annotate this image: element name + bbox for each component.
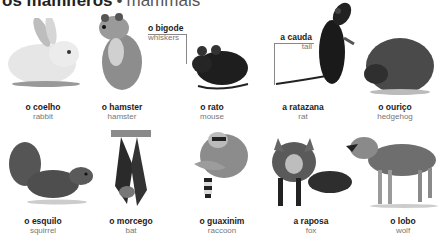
label-pt: o morcego bbox=[88, 216, 174, 226]
label-en: hedgehog bbox=[352, 112, 438, 122]
mouse-image bbox=[188, 40, 250, 92]
label-pt: a ratazana bbox=[260, 102, 346, 112]
whiskers-callout: o bigode whiskers bbox=[148, 23, 183, 43]
label-pt: o esquilo bbox=[0, 216, 86, 226]
label-en: rabbit bbox=[0, 112, 86, 122]
label-pt: o lobo bbox=[360, 216, 440, 226]
label-en: raccoon bbox=[179, 226, 265, 236]
label-pt: o guaxinim bbox=[179, 216, 265, 226]
wolf-image bbox=[340, 126, 440, 210]
animal-label-wolf: o lobo wolf bbox=[360, 216, 440, 236]
rat-image bbox=[274, 0, 356, 92]
raccoon-image bbox=[190, 126, 252, 206]
rabbit-image bbox=[2, 18, 86, 88]
title-separator: • bbox=[117, 0, 123, 10]
animal-label-hedgehog: o ouriço hedgehog bbox=[352, 102, 438, 122]
animal-label-rabbit: o coelho rabbit bbox=[0, 102, 86, 122]
title-english: mammals bbox=[127, 0, 201, 10]
animal-label-mouse: o rato mouse bbox=[169, 102, 255, 122]
label-en: hamster bbox=[79, 112, 165, 122]
label-pt: o coelho bbox=[0, 102, 86, 112]
animal-label-squirrel: o esquilo squirrel bbox=[0, 216, 86, 236]
callout-pt: o bigode bbox=[148, 23, 183, 33]
label-en: rat bbox=[260, 112, 346, 122]
whiskers-callout-line bbox=[186, 34, 187, 64]
label-en: wolf bbox=[360, 226, 440, 236]
animal-label-fox: a raposa fox bbox=[268, 216, 354, 236]
label-en: bat bbox=[88, 226, 174, 236]
squirrel-image bbox=[5, 140, 97, 206]
label-pt: a raposa bbox=[268, 216, 354, 226]
label-pt: o rato bbox=[169, 102, 255, 112]
label-en: fox bbox=[268, 226, 354, 236]
bat-image bbox=[107, 126, 155, 208]
hamster-image bbox=[92, 10, 148, 92]
label-pt: o ouriço bbox=[352, 102, 438, 112]
animal-label-raccoon: o guaxinim raccoon bbox=[179, 216, 265, 236]
label-en: mouse bbox=[169, 112, 255, 122]
label-en: squirrel bbox=[0, 226, 86, 236]
label-pt: o hamster bbox=[79, 102, 165, 112]
animal-label-hamster: o hamster hamster bbox=[79, 102, 165, 122]
animal-label-rat: a ratazana rat bbox=[260, 102, 346, 122]
animal-label-bat: o morcego bat bbox=[88, 216, 174, 236]
callout-en: whiskers bbox=[148, 33, 183, 43]
title-portuguese: os mamíferos bbox=[2, 0, 113, 10]
hedgehog-image bbox=[358, 34, 438, 96]
